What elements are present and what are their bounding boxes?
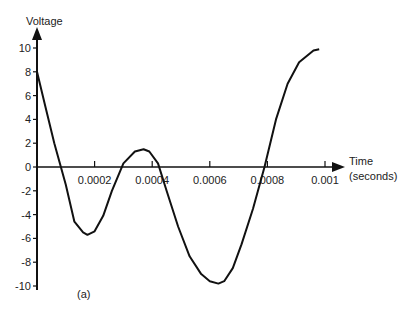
y-tick-label: -10 <box>15 280 31 292</box>
panel-label: (a) <box>77 288 90 300</box>
x-tick-label: 0.0008 <box>251 174 285 186</box>
x-axis-arrow-icon <box>332 162 345 172</box>
y-tick-label: -2 <box>21 185 31 197</box>
y-tick-label: 10 <box>19 42 31 54</box>
y-axis-arrow-icon <box>32 27 42 40</box>
x-axis-label-line2: (seconds) <box>349 170 397 182</box>
x-axis-label-line1: Time <box>349 155 373 167</box>
y-tick-label: 4 <box>25 113 31 125</box>
y-tick-label: 0 <box>25 161 31 173</box>
y-tick-label: 6 <box>25 90 31 102</box>
y-axis-label: Voltage <box>26 15 63 27</box>
x-axis-ticks: 0.00020.00040.00060.00080.001 <box>78 161 339 186</box>
y-tick-label: -4 <box>21 209 31 221</box>
y-tick-label: 2 <box>25 137 31 149</box>
x-tick-label: 0.0006 <box>193 174 227 186</box>
voltage-chart: 1086420-2-4-6-8-10 0.00020.00040.00060.0… <box>0 0 413 319</box>
y-tick-label: -6 <box>21 232 31 244</box>
y-axis-ticks: 1086420-2-4-6-8-10 <box>15 42 37 292</box>
y-tick-label: 8 <box>25 66 31 78</box>
x-tick-label: 0.0002 <box>78 174 112 186</box>
y-tick-label: -8 <box>21 256 31 268</box>
x-tick-label: 0.001 <box>311 174 339 186</box>
